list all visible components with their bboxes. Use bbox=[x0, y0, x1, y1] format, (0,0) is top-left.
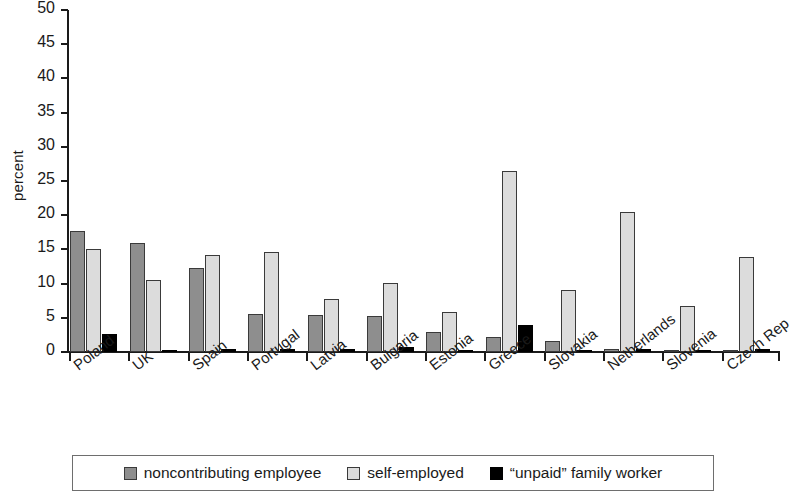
y-tick-label: 30 bbox=[9, 136, 55, 154]
chart-legend: noncontributing employeeself-employed“un… bbox=[72, 455, 714, 491]
y-tick-mark bbox=[61, 77, 68, 79]
legend-entry: noncontributing employee bbox=[124, 464, 322, 482]
legend-label: self-employed bbox=[367, 464, 464, 482]
y-tick-label: 15 bbox=[9, 238, 55, 256]
legend-label: “unpaid” family worker bbox=[510, 464, 662, 482]
bar bbox=[70, 231, 85, 352]
bar-group bbox=[367, 10, 414, 352]
bar-group bbox=[70, 10, 117, 352]
legend-entry: “unpaid” family worker bbox=[490, 464, 662, 482]
bar-group bbox=[248, 10, 295, 352]
bar bbox=[308, 315, 323, 352]
bar-group bbox=[486, 10, 533, 352]
y-tick-label: 45 bbox=[9, 33, 55, 51]
bar bbox=[620, 212, 635, 352]
y-tick-label: 10 bbox=[9, 273, 55, 291]
legend-entry: self-employed bbox=[347, 464, 464, 482]
y-tick-mark bbox=[61, 180, 68, 182]
bar bbox=[130, 243, 145, 352]
bar-group bbox=[723, 10, 770, 352]
y-tick-mark bbox=[61, 214, 68, 216]
bar-group bbox=[664, 10, 711, 352]
legend-swatch bbox=[347, 467, 360, 480]
bar bbox=[367, 316, 382, 352]
bar-group bbox=[426, 10, 473, 352]
bar-group bbox=[545, 10, 592, 352]
bar-group bbox=[604, 10, 651, 352]
y-tick-mark bbox=[61, 43, 68, 45]
y-tick-mark bbox=[61, 146, 68, 148]
y-tick-label: 50 bbox=[9, 0, 55, 17]
y-tick-mark bbox=[61, 317, 68, 319]
y-tick-label: 0 bbox=[9, 341, 55, 359]
bar bbox=[502, 171, 517, 352]
y-tick-mark bbox=[61, 283, 68, 285]
y-tick-mark bbox=[61, 112, 68, 114]
legend-swatch bbox=[490, 467, 503, 480]
bar bbox=[146, 280, 161, 353]
plot-area bbox=[68, 10, 780, 352]
x-tick-mark bbox=[778, 353, 780, 361]
bar-group bbox=[189, 10, 236, 352]
bar-group bbox=[308, 10, 355, 352]
y-tick-label: 20 bbox=[9, 204, 55, 222]
bar bbox=[248, 314, 263, 352]
y-tick-label: 40 bbox=[9, 67, 55, 85]
legend-label: noncontributing employee bbox=[144, 464, 322, 482]
y-tick-label: 35 bbox=[9, 102, 55, 120]
y-tick-mark bbox=[61, 351, 68, 353]
bar-group bbox=[130, 10, 177, 352]
y-tick-label: 5 bbox=[9, 307, 55, 325]
legend-swatch bbox=[124, 467, 137, 480]
bar bbox=[162, 350, 177, 352]
y-tick-mark bbox=[61, 248, 68, 250]
y-tick-label: 25 bbox=[9, 170, 55, 188]
y-tick-mark bbox=[61, 9, 68, 11]
bar bbox=[189, 268, 204, 352]
